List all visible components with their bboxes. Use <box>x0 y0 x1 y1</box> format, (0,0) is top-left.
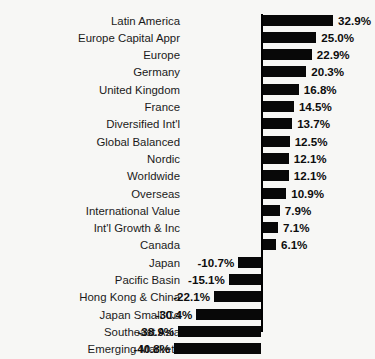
category-label: Worldwide <box>0 170 180 183</box>
bar-value-label: -15.1% <box>188 273 225 286</box>
bar <box>174 343 261 354</box>
bar-value-label: 10.9% <box>291 187 324 200</box>
category-label: Nordic <box>0 153 180 166</box>
bar-value-label: 22.9% <box>317 48 350 61</box>
bar-row: Japan-10.7% <box>0 257 375 274</box>
bar <box>263 32 316 43</box>
bar <box>238 257 261 268</box>
bar-row: Latin America32.9% <box>0 15 375 32</box>
bar <box>263 118 292 129</box>
bar-value-label: 7.9% <box>285 204 311 217</box>
category-label: United Kingdom <box>0 84 180 97</box>
bar-value-label: 12.1% <box>294 152 327 165</box>
bar-row: Worldwide12.1% <box>0 170 375 187</box>
bar-value-label: 12.5% <box>295 135 328 148</box>
bar-value-label: 6.1% <box>281 238 307 251</box>
bar <box>263 188 286 199</box>
bar-value-label: -30.4% <box>156 308 193 321</box>
bar-value-label: -40.8% <box>133 342 170 355</box>
bar-value-label: 20.3% <box>311 65 344 78</box>
bar-row: Overseas10.9% <box>0 188 375 205</box>
category-label: Global Balanced <box>0 136 180 149</box>
bar <box>263 136 290 147</box>
bar <box>178 326 261 337</box>
bar <box>263 153 289 164</box>
category-label: Canada <box>0 239 180 252</box>
bar-value-label: 14.5% <box>299 100 332 113</box>
category-label: Japan <box>0 257 180 270</box>
bar-value-label: 25.0% <box>321 31 354 44</box>
bar <box>263 239 276 250</box>
bar-value-label: 16.8% <box>304 83 337 96</box>
bar <box>196 309 261 320</box>
category-label: Latin America <box>0 15 180 28</box>
bar-row: Canada6.1% <box>0 239 375 256</box>
bar-value-label: -22.1% <box>173 290 210 303</box>
bar-row: Diversified Int'l13.7% <box>0 118 375 135</box>
bar <box>263 222 278 233</box>
bar-row: Germany20.3% <box>0 66 375 83</box>
bar-row: Europe Capital Appr25.0% <box>0 32 375 49</box>
category-label: Japan Small Co <box>0 309 180 322</box>
bar-row: Pacific Basin-15.1% <box>0 274 375 291</box>
bar-value-label: 12.1% <box>294 169 327 182</box>
bar-row: Global Balanced12.5% <box>0 136 375 153</box>
bar-value-label: 13.7% <box>297 117 330 130</box>
bar <box>229 274 261 285</box>
category-label: Europe <box>0 49 180 62</box>
bar <box>263 101 294 112</box>
bar-row: Nordic12.1% <box>0 153 375 170</box>
category-label: Germany <box>0 66 180 79</box>
category-label: Europe Capital Appr <box>0 32 180 45</box>
category-label: France <box>0 101 180 114</box>
bar-row: Southeast Asia-38.9% <box>0 326 375 343</box>
bar <box>263 49 312 60</box>
bar-row: Emerging Markets-40.8% <box>0 343 375 359</box>
category-label: Pacific Basin <box>0 274 180 287</box>
category-label: Overseas <box>0 188 180 201</box>
bar <box>263 66 306 77</box>
bar-row: Hong Kong & China-22.1% <box>0 291 375 308</box>
category-label: Int'l Growth & Inc <box>0 222 180 235</box>
bar-value-label: -10.7% <box>197 256 234 269</box>
bar-row: Europe22.9% <box>0 49 375 66</box>
bar-row: Japan Small Co-30.4% <box>0 309 375 326</box>
category-label: International Value <box>0 205 180 218</box>
category-label: Diversified Int'l <box>0 118 180 131</box>
bar <box>263 15 333 26</box>
bar <box>263 170 289 181</box>
bar-value-label: 32.9% <box>338 14 371 27</box>
bar-value-label: 7.1% <box>283 221 309 234</box>
category-label: Hong Kong & China <box>0 291 180 304</box>
bar-row: Int'l Growth & Inc7.1% <box>0 222 375 239</box>
bar <box>263 84 299 95</box>
bar <box>214 291 261 302</box>
bar-row: International Value7.9% <box>0 205 375 222</box>
bar-value-label: -38.9% <box>137 325 174 338</box>
bar <box>263 205 280 216</box>
bar-row: France14.5% <box>0 101 375 118</box>
bar-row: United Kingdom16.8% <box>0 84 375 101</box>
